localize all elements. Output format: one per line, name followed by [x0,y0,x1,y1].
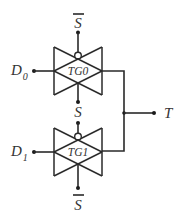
top-select-signal: S [73,14,84,52]
bottom-select-signal: S [73,164,84,213]
terminal-dot [152,111,156,115]
top-select-label: S [74,15,82,31]
inversion-bubble [75,133,82,140]
d1-label: D1 [10,143,28,163]
tg0-label: TG0 [68,65,89,77]
output-wire: T [102,71,174,151]
terminal-dot [76,186,80,190]
middle-select-signal: S [74,84,82,133]
d0-label: D0 [10,62,28,82]
output-label: T [164,105,174,121]
d1-input: D1 [10,143,54,163]
middle-select-label: S [74,104,82,120]
mux-diagram: S TG0 D0 S TG1 D1 [0,0,183,219]
d0-input: D0 [10,62,54,82]
tg1-label: TG1 [68,146,88,158]
inversion-bubble [75,52,82,59]
bottom-select-label: S [74,197,82,213]
